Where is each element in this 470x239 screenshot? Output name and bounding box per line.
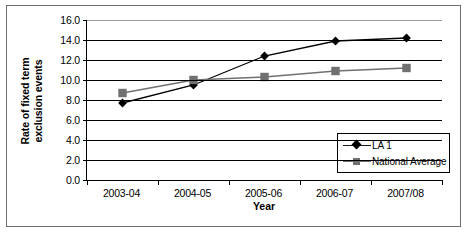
y-axis-tick-label: 6.0 xyxy=(66,114,80,126)
gridline xyxy=(87,140,442,141)
legend: LA 1 National Average xyxy=(337,133,450,173)
y-axis-tick-label: 10.0 xyxy=(60,74,80,86)
square-marker-icon xyxy=(331,67,339,75)
gridline xyxy=(87,40,442,41)
x-axis-tick-label: 2004-05 xyxy=(174,187,211,199)
x-axis-tick xyxy=(87,180,88,185)
x-axis-tick xyxy=(442,180,443,185)
gridline xyxy=(87,160,442,161)
y-axis-tick xyxy=(83,160,87,161)
legend-label-national-average: National Average xyxy=(372,156,446,167)
y-axis-title-line1: Rate of fixed term xyxy=(19,57,31,144)
y-axis-tick-labels: 16.014.012.010.08.06.04.02.00.0 xyxy=(44,14,80,180)
legend-key-square xyxy=(342,154,372,168)
x-axis-tick-label: 2007/08 xyxy=(387,187,424,199)
x-axis-tick xyxy=(158,180,159,185)
y-axis-tick xyxy=(83,100,87,101)
y-axis-tick xyxy=(83,120,87,121)
x-axis-tick xyxy=(371,180,372,185)
gridline xyxy=(87,100,442,101)
x-axis-tick-label: 2003-04 xyxy=(103,187,140,199)
y-axis-tick-label: 2.0 xyxy=(66,154,80,166)
y-axis-title-line2: exclusion events xyxy=(32,59,44,142)
diamond-marker-icon xyxy=(402,34,411,43)
diamond-marker-icon xyxy=(352,140,362,150)
x-axis-tick xyxy=(300,180,301,185)
y-axis-tick xyxy=(83,140,87,141)
x-axis-title: Year xyxy=(86,200,442,212)
y-axis-tick xyxy=(83,80,87,81)
gridline xyxy=(87,20,442,21)
chart-screenshot: Rate of fixed term exclusion events 16.0… xyxy=(0,0,470,239)
y-axis-tick-label: 0.0 xyxy=(66,174,80,186)
square-marker-icon xyxy=(353,158,360,165)
x-axis-tick-label: 2006-07 xyxy=(316,187,353,199)
gridline xyxy=(87,80,442,81)
y-axis-tick-label: 16.0 xyxy=(60,14,80,26)
diamond-marker-icon xyxy=(331,37,340,46)
legend-label-la-1: LA 1 xyxy=(372,140,392,151)
y-axis-tick-label: 12.0 xyxy=(60,54,80,66)
gridline xyxy=(87,120,442,121)
y-axis-tick-label: 14.0 xyxy=(60,34,80,46)
gridline xyxy=(87,60,442,61)
x-axis-tick xyxy=(229,180,230,185)
legend-item-national-average: National Average xyxy=(342,153,445,169)
y-axis-tick-label: 4.0 xyxy=(66,134,80,146)
y-axis-tick xyxy=(83,60,87,61)
square-marker-icon xyxy=(402,64,410,72)
y-axis-tick xyxy=(83,20,87,21)
y-axis-tick xyxy=(83,40,87,41)
x-axis-tick-label: 2005-06 xyxy=(245,187,282,199)
y-axis-tick-label: 8.0 xyxy=(66,94,80,106)
square-marker-icon xyxy=(118,89,126,97)
plot-area: LA 1 National Average xyxy=(86,20,442,181)
